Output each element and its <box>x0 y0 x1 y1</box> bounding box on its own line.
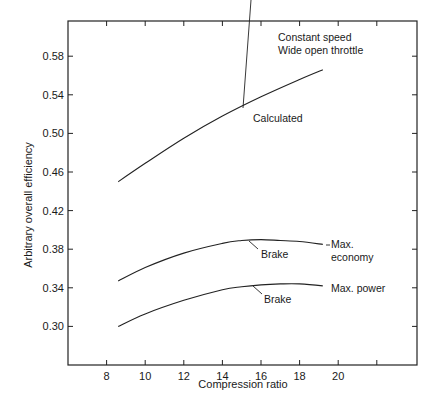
data-curves <box>118 70 323 327</box>
y-tick-label: 0.58 <box>43 50 64 62</box>
calculated-curve <box>118 70 323 182</box>
condition-label-speed: Constant speed <box>278 31 352 43</box>
brake-economy-label: Brake <box>261 248 289 260</box>
calculated-label: Calculated <box>253 112 303 124</box>
y-tick-label: 0.42 <box>43 205 64 217</box>
max-power-label: Max. power <box>331 282 386 294</box>
axis-ticks <box>68 21 417 365</box>
y-tick-label: 0.30 <box>43 320 64 332</box>
x-tick-label: 10 <box>139 370 151 382</box>
x-axis-title: Compression ratio <box>198 378 287 390</box>
y-tick-label: 0.34 <box>43 282 64 294</box>
plot-frame <box>68 21 417 365</box>
y-tick-label: 0.38 <box>43 243 64 255</box>
x-tick-label: 18 <box>293 370 305 382</box>
x-tick-label: 8 <box>104 370 110 382</box>
y-axis-title: Arbitrary overall efficiency <box>22 142 34 268</box>
x-tick-label: 12 <box>178 370 190 382</box>
efficiency-chart: 8101214161820 0.300.340.380.420.460.500.… <box>0 0 440 409</box>
brake-economy-leader <box>249 241 258 249</box>
max-economy-label-2: economy <box>331 251 374 263</box>
brake-max-power-curve <box>118 284 323 327</box>
brake-max-economy-curve <box>118 240 323 281</box>
calculated-leader <box>243 0 251 108</box>
brake-power-label: Brake <box>264 293 292 305</box>
max-economy-label-1: Max. <box>331 238 354 250</box>
y-tick-label: 0.50 <box>43 127 64 139</box>
y-tick-labels: 0.300.340.380.420.460.500.540.58 <box>43 50 64 332</box>
x-tick-label: 20 <box>332 370 344 382</box>
condition-label-throttle: Wide open throttle <box>278 44 363 56</box>
y-tick-label: 0.54 <box>43 89 64 101</box>
brake-power-leader <box>253 286 262 294</box>
y-tick-label: 0.46 <box>43 166 64 178</box>
